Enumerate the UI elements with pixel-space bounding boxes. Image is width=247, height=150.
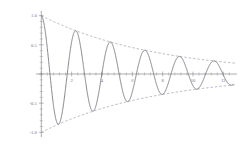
lower-envelope-curve — [41, 85, 236, 133]
x-tick-label: 4 — [101, 78, 104, 83]
chart-container: 24681012 -1.0-0.50.51.0 — [0, 0, 247, 150]
y-tick-label: -1.0 — [30, 130, 38, 135]
damped-cosine-curve — [41, 16, 233, 125]
upper-envelope-curve — [41, 16, 236, 64]
x-tick-label: 12 — [221, 78, 226, 83]
x-tick-label: 6 — [131, 78, 134, 83]
damped-oscillation-chart: 24681012 -1.0-0.50.51.0 — [0, 0, 247, 150]
y-tick-label: -0.5 — [30, 101, 38, 106]
x-tick-label: 2 — [71, 78, 74, 83]
x-tick-label: 8 — [162, 78, 165, 83]
y-tick-label: 1.0 — [31, 13, 37, 18]
x-tick-label: 10 — [191, 78, 196, 83]
y-tick-label: 0.5 — [31, 43, 37, 48]
